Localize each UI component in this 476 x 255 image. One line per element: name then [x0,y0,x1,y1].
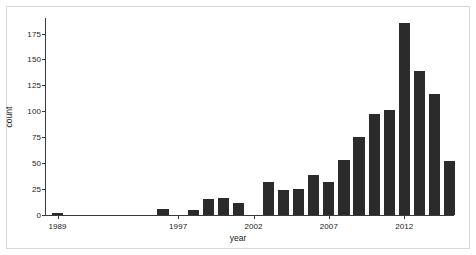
x-tick-mark [254,216,255,219]
bar [369,114,380,215]
bar [353,137,364,215]
bar [52,213,63,215]
x-tick-label: 2007 [320,222,338,231]
y-tick-mark [42,85,45,86]
y-tick-mark [42,189,45,190]
x-axis-line [45,215,454,216]
y-tick-mark [42,111,45,112]
bar [429,94,440,215]
y-tick-mark [42,137,45,138]
x-tick-label: 2002 [244,222,262,231]
y-tick-mark [42,34,45,35]
bar [218,198,229,215]
bar [263,182,274,215]
bar [203,199,214,215]
x-tick-mark [178,216,179,219]
bar [157,209,168,215]
x-tick-mark [329,216,330,219]
bar [338,160,349,215]
chart-figure: count 0255075100125150175 year 198919972… [0,0,476,255]
bar [414,71,425,215]
bar [188,210,199,215]
x-tick-mark [404,216,405,219]
y-tick-mark [42,59,45,60]
x-tick-label: 1997 [169,222,187,231]
y-tick-mark [42,163,45,164]
bar [233,203,244,215]
bar [384,110,395,215]
bar [323,182,334,215]
x-tick-mark [58,216,59,219]
bar [308,175,319,215]
x-tick-label: 1989 [48,222,66,231]
bar [444,161,455,215]
x-axis-title: year [0,233,476,243]
x-tick-label: 2012 [395,222,413,231]
y-tick-mark [42,215,45,216]
bar [293,189,304,215]
bar-series [0,0,476,215]
bar [399,23,410,215]
bar [278,190,289,215]
